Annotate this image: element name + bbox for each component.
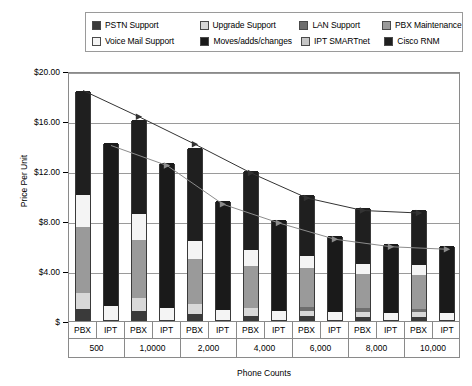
x-axis-group-label: 2,000 — [181, 339, 237, 357]
legend-item-label: PBX Maintenance — [395, 21, 462, 30]
trendline-marker — [164, 162, 170, 168]
x-axis-subcategory-label: PBX — [181, 322, 209, 338]
y-axis-tick-label: $8.00 — [0, 217, 60, 227]
trendline-marker — [276, 220, 282, 226]
x-axis-subcategory-label: PBX — [125, 322, 153, 338]
legend-item[interactable]: PBX Maintenance — [382, 21, 456, 30]
trendline-marker — [136, 114, 142, 120]
x-axis-subcategory-label: PBX — [405, 322, 433, 338]
legend-item[interactable]: LAN Support — [299, 21, 382, 30]
x-axis-subcategory-label: IPT — [97, 322, 125, 338]
legend-row-2: Voice Mail SupportMoves/adds/changesIPT … — [92, 33, 456, 49]
legend-swatch-icon — [200, 21, 209, 30]
trendline-marker — [248, 170, 254, 176]
trendline-marker — [388, 244, 394, 250]
legend-item-label: PSTN Support — [105, 21, 159, 30]
trendline-marker — [304, 195, 310, 201]
legend-swatch-icon — [301, 37, 310, 46]
legend-item-label: Voice Mail Support — [105, 37, 174, 46]
trendline-marker — [332, 236, 338, 242]
y-axis-tick-label: $4.00 — [0, 267, 60, 277]
legend-item[interactable]: PSTN Support — [92, 21, 200, 30]
legend-row-1: PSTN SupportUpgrade SupportLAN SupportPB… — [92, 17, 456, 33]
trendline-marker — [192, 141, 198, 147]
legend-item-label: LAN Support — [312, 21, 360, 30]
legend-swatch-icon — [200, 37, 209, 46]
x-axis-group-row: 5001,00002,0004,0006,0008,00010,000 — [68, 339, 460, 358]
y-axis-tick-label: $12.00 — [0, 167, 60, 177]
trendline-pbx — [83, 91, 419, 214]
x-axis-subcategory-label: IPT — [153, 322, 181, 338]
x-axis-subcategory-label: PBX — [349, 322, 377, 338]
trendline-marker — [416, 210, 422, 216]
legend-item-label: IPT SMARTnet — [314, 37, 370, 46]
y-axis-title: Price Per Unit — [19, 141, 29, 221]
legend-item-label: Cisco RNM — [397, 37, 439, 46]
x-axis-title: Phone Counts — [68, 368, 460, 378]
legend-item[interactable]: Voice Mail Support — [92, 37, 200, 46]
plot-area — [68, 72, 460, 322]
trendline-marker — [444, 246, 450, 252]
legend-item[interactable]: Cisco RNM — [384, 37, 456, 46]
chart-legend: PSTN SupportUpgrade SupportLAN SupportPB… — [85, 12, 463, 52]
x-axis-subcategory-label: IPT — [321, 322, 349, 338]
x-axis-group-label: 500 — [69, 339, 125, 357]
x-axis-subcategory-label: IPT — [433, 322, 461, 338]
legend-item[interactable]: Upgrade Support — [200, 21, 300, 30]
x-axis-subcategory-row: PBXIPTPBXIPTPBXIPTPBXIPTPBXIPTPBXIPTPBXI… — [68, 322, 460, 339]
legend-item-label: Moves/adds/changes — [213, 37, 292, 46]
legend-swatch-icon — [299, 21, 308, 30]
x-axis-subcategory-label: IPT — [265, 322, 293, 338]
x-axis-group-label: 6,000 — [293, 339, 349, 357]
chart-page: PSTN SupportUpgrade SupportLAN SupportPB… — [0, 0, 472, 386]
trendline-marker — [360, 207, 366, 213]
trendline-marker — [220, 201, 226, 207]
trendline-overlay — [69, 73, 461, 323]
x-axis-subcategory-label: PBX — [69, 322, 97, 338]
x-axis-subcategory-label: IPT — [377, 322, 405, 338]
legend-item[interactable]: Moves/adds/changes — [200, 37, 301, 46]
legend-item-label: Upgrade Support — [213, 21, 276, 30]
y-axis-tick-label: $20.00 — [0, 67, 60, 77]
legend-item[interactable]: IPT SMARTnet — [301, 37, 384, 46]
x-axis-subcategory-label: PBX — [293, 322, 321, 338]
legend-swatch-icon — [92, 37, 101, 46]
x-axis-group-label: 10,000 — [405, 339, 461, 357]
y-axis-tick-label: $ — [0, 317, 60, 327]
legend-swatch-icon — [92, 21, 101, 30]
legend-swatch-icon — [384, 37, 393, 46]
legend-swatch-icon — [382, 21, 391, 30]
x-axis-subcategory-label: PBX — [237, 322, 265, 338]
trendline-ipt — [111, 146, 447, 250]
x-axis-subcategory-label: IPT — [209, 322, 237, 338]
x-axis-group-label: 1,0000 — [125, 339, 181, 357]
x-axis-group-label: 4,000 — [237, 339, 293, 357]
y-axis-tick-label: $16.00 — [0, 117, 60, 127]
x-axis-group-label: 8,000 — [349, 339, 405, 357]
